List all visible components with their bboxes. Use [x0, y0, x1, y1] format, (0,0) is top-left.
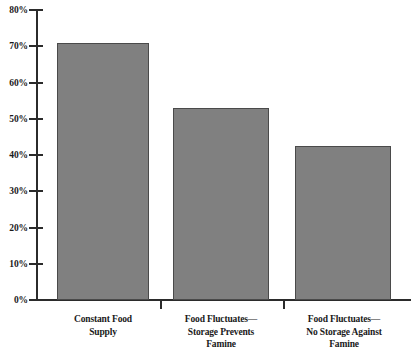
y-axis-tick: [29, 118, 43, 120]
y-axis-tick-label: 40%: [0, 150, 28, 160]
category-divider-tick-2: [283, 300, 285, 309]
bar: [57, 43, 149, 300]
y-axis-tick-label: 30%: [0, 186, 28, 196]
y-axis-tick-label-text: 10%: [0, 259, 28, 269]
category-divider-tick-1: [160, 300, 162, 309]
category-label-line: Food Fluctuates—: [278, 313, 410, 326]
y-axis-tick-label-text: 50%: [0, 114, 28, 124]
y-axis-tick-label-text: 40%: [0, 150, 28, 160]
y-axis-tick-label-text: 30%: [0, 186, 28, 196]
bar: [295, 146, 391, 300]
y-axis-tick: [29, 9, 43, 11]
y-axis-tick: [29, 299, 43, 301]
y-axis-tick: [29, 263, 43, 265]
y-axis-tick-label: 50%: [0, 114, 28, 124]
y-axis-tick-label-text: 0%: [0, 295, 28, 305]
category-label-line: Supply: [39, 326, 167, 339]
y-axis-tick-label: 20%: [0, 223, 28, 233]
bar-chart: 0%10%20%30%40%50%60%70%80% Constant Food…: [0, 0, 419, 360]
y-axis-tick-label: 80%: [0, 5, 28, 15]
category-label-line: Famine: [278, 338, 410, 351]
category-label: Constant FoodSupply: [39, 313, 167, 338]
category-label-line: Food Fluctuates—: [152, 313, 290, 326]
category-label: Food Fluctuates—No Storage AgainstFamine: [278, 313, 410, 351]
y-axis-tick-label: 70%: [0, 41, 28, 51]
category-label-line: Famine: [152, 338, 290, 351]
category-label-line: No Storage Against: [278, 326, 410, 339]
y-axis-tick: [29, 154, 43, 156]
category-label: Food Fluctuates—Storage PreventsFamine: [152, 313, 290, 351]
bar: [173, 108, 269, 300]
y-axis-tick-label-text: 70%: [0, 41, 28, 51]
y-axis-tick-label-text: 20%: [0, 223, 28, 233]
y-axis-tick-label-text: 60%: [0, 78, 28, 88]
y-axis-tick-label: 10%: [0, 259, 28, 269]
y-axis-tick: [29, 82, 43, 84]
y-axis-tick: [29, 227, 43, 229]
category-label-line: Constant Food: [39, 313, 167, 326]
y-axis-tick-label: 0%: [0, 295, 28, 305]
y-axis-tick: [29, 45, 43, 47]
y-axis-tick: [29, 190, 43, 192]
category-label-line: Storage Prevents: [152, 326, 290, 339]
y-axis-tick-label-text: 80%: [0, 5, 28, 15]
y-axis-tick-label: 60%: [0, 78, 28, 88]
